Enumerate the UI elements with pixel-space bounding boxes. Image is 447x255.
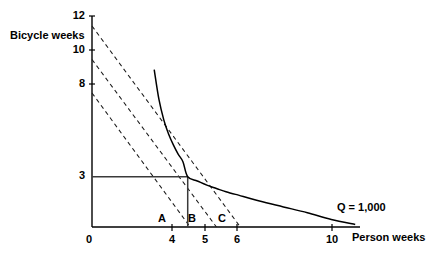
- x-tick-label-6: 6: [234, 234, 240, 245]
- x-axis-title: Person weeks: [352, 232, 425, 243]
- y-tick-label-8: 8: [79, 78, 85, 89]
- x-tick-label-0: 0: [86, 234, 92, 245]
- isoquant-curve-label: Q = 1,000: [337, 202, 386, 213]
- point-label-a: A: [158, 213, 166, 224]
- y-tick-label-3: 3: [79, 170, 85, 181]
- point-label-b: B: [188, 213, 196, 224]
- x-tick-label-4: 4: [169, 234, 175, 245]
- x-tick-label-5: 5: [202, 234, 208, 245]
- optimum-guide-rectangle: [92, 177, 188, 227]
- y-tick-label-10: 10: [73, 44, 85, 55]
- y-tick-label-12: 12: [73, 10, 85, 21]
- isocost-line-b: [92, 60, 216, 227]
- isocost-line-a: [92, 93, 190, 227]
- x-tick-label-10: 10: [326, 234, 338, 245]
- point-label-c: C: [218, 213, 226, 224]
- isoquant-curve: [154, 70, 355, 225]
- y-axis-title: Bicycle weeks: [10, 30, 85, 41]
- isoquant-chart-figure: Bicycle weeks Person weeks 12 10 8 3 0 4…: [0, 0, 447, 255]
